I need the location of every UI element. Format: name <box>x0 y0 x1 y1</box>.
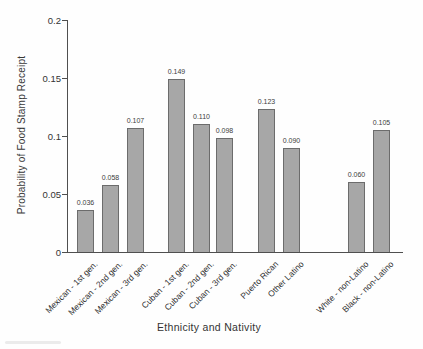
bar-chart-figure: Probability of Food Stamp Receipt 00.050… <box>0 0 423 349</box>
y-tick-label: 0.15 <box>43 73 62 84</box>
y-tick-label: 0.2 <box>48 15 61 26</box>
y-tick-label: 0 <box>56 247 61 258</box>
y-tick-mark <box>62 78 67 79</box>
y-tick-mark <box>62 194 67 195</box>
bar-value-label: 0.107 <box>119 117 153 124</box>
bar <box>102 185 119 252</box>
bar <box>283 148 300 252</box>
bar-value-label: 0.149 <box>160 68 194 75</box>
bar-value-label: 0.123 <box>250 98 284 105</box>
x-axis-title: Ethnicity and Nativity <box>157 321 261 333</box>
bar <box>77 210 94 252</box>
y-axis-line <box>67 20 68 253</box>
y-tick-label: 0.05 <box>43 189 62 200</box>
bar <box>127 128 144 252</box>
bar <box>193 124 210 252</box>
y-tick-mark <box>62 252 67 253</box>
x-axis-line <box>65 252 403 253</box>
bar-value-label: 0.090 <box>275 137 309 144</box>
bar-value-label: 0.058 <box>94 174 128 181</box>
y-tick-label: 0.1 <box>48 131 61 142</box>
bar-value-label: 0.098 <box>208 127 242 134</box>
bar-value-label: 0.110 <box>185 113 219 120</box>
bar <box>216 138 233 252</box>
scan-artifact-smudge <box>5 341 61 344</box>
y-tick-mark <box>62 136 67 137</box>
bar <box>258 109 275 252</box>
bar-value-label: 0.105 <box>365 119 399 126</box>
y-axis-title: Probability of Food Stamp Receipt <box>16 56 27 214</box>
y-tick-mark <box>62 20 67 21</box>
bar <box>373 130 390 252</box>
bar-value-label: 0.036 <box>69 199 103 206</box>
bar <box>348 182 365 252</box>
bar-value-label: 0.060 <box>340 171 374 178</box>
bar <box>168 79 185 252</box>
